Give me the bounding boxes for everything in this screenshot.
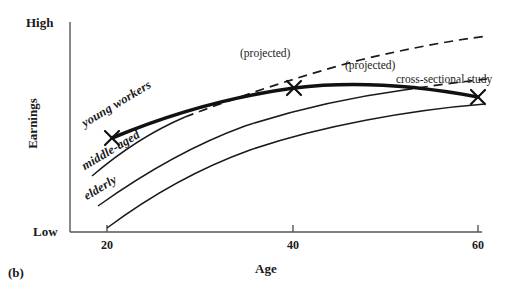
curve-elderly xyxy=(107,104,485,228)
curve-label-cross-sectional-study: cross-sectional study xyxy=(396,74,492,86)
panel-caption: (b) xyxy=(8,266,24,279)
x-tick-label-60: 60 xyxy=(463,239,493,251)
axis-label-high: High xyxy=(26,16,53,29)
axis-label-low: Low xyxy=(33,225,58,238)
chart-plot-area xyxy=(0,0,522,290)
curve-middle-aged xyxy=(98,90,404,206)
x-tick-label-40: 40 xyxy=(278,239,308,251)
axis-ticks-x xyxy=(107,225,478,232)
earnings-age-chart: High Low Earnings Age 20 40 60 young wor… xyxy=(0,0,522,290)
annotation-projected-upper: (projected) xyxy=(240,48,290,60)
axis-title-y: Earnings xyxy=(26,89,39,159)
x-tick-label-20: 20 xyxy=(92,239,122,251)
annotation-projected-lower: (projected) xyxy=(345,60,395,72)
axis-title-x: Age xyxy=(255,262,277,275)
